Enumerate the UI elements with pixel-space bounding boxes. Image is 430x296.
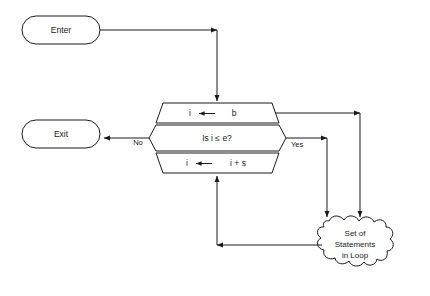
test-label: Is i ≤ e? bbox=[202, 133, 232, 143]
flowchart-canvas: Enter Exit i b Is i ≤ e? i i + s bbox=[0, 0, 430, 296]
loop-body-line-2: Statements bbox=[335, 240, 375, 249]
enter-label: Enter bbox=[51, 25, 71, 35]
branch-label-no: No bbox=[133, 138, 143, 147]
branch-label-yes: Yes bbox=[291, 140, 303, 149]
init-shape bbox=[156, 103, 279, 123]
init-value-label: b bbox=[232, 108, 237, 118]
increment-shape bbox=[156, 153, 279, 173]
increment-value-label: i + s bbox=[230, 158, 246, 168]
loop-body-line-3: in Loop bbox=[342, 251, 369, 260]
node-enter[interactable]: Enter bbox=[22, 16, 100, 44]
increment-var-label: i bbox=[186, 158, 188, 168]
node-exit[interactable]: Exit bbox=[22, 120, 100, 148]
node-loop-body[interactable]: Set of Statements in Loop bbox=[317, 216, 393, 266]
loop-body-line-1: Set of bbox=[345, 229, 367, 238]
exit-label: Exit bbox=[54, 129, 69, 139]
init-var-label: i bbox=[189, 108, 191, 118]
node-test[interactable]: Is i ≤ e? bbox=[149, 125, 286, 151]
node-increment[interactable]: i i + s bbox=[156, 153, 279, 173]
node-init[interactable]: i b bbox=[156, 103, 279, 123]
flowchart-svg: Enter Exit i b Is i ≤ e? i i + s bbox=[0, 0, 430, 296]
